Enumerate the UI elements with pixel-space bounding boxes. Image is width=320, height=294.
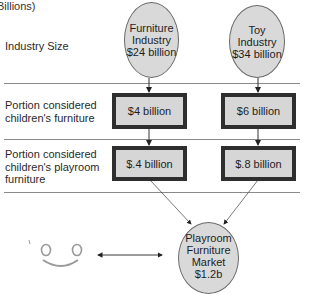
childrens-furniture-box-toy: $6 billion — [221, 93, 296, 129]
childrens-furniture-box-furniture: $4 billion — [112, 93, 187, 129]
circle-text-line: Playroom — [185, 232, 231, 244]
playroom-furniture-box-furniture: $.4 billion — [112, 146, 187, 181]
furniture-industry-circle: Furniture Industry $24 billion — [124, 2, 179, 78]
playroom-market-circle: Playroom Furniture Market $1.2b — [178, 222, 239, 294]
circle-text-line: Furniture — [129, 22, 173, 34]
circle-text-line: Toy — [248, 24, 265, 36]
circle-text-line: Furniture — [186, 244, 230, 256]
circle-text-line: Market — [192, 256, 226, 268]
playroom-furniture-box-toy: $.8 billion — [221, 146, 296, 181]
circle-text-line: Industry — [237, 36, 276, 48]
box-value: $6 billion — [237, 105, 280, 117]
box-value: $.4 billion — [126, 158, 172, 170]
circle-text-line: $1.2b — [195, 268, 223, 280]
toy-industry-circle: Toy Industry $34 billion — [229, 5, 285, 78]
circle-text-line: Industry — [132, 34, 171, 46]
smiley-face-icon — [24, 236, 88, 272]
circle-text-line: $24 billion — [127, 46, 177, 58]
box-value: $4 billion — [128, 105, 171, 117]
circle-text-line: $34 billion — [232, 48, 282, 60]
box-value: $.8 billion — [235, 158, 281, 170]
